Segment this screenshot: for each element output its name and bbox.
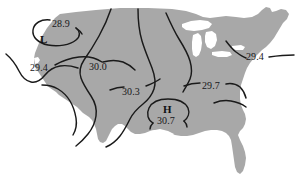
- low-pressure-symbol: L: [40, 34, 47, 45]
- chesapeake-bay-detail: [254, 61, 259, 70]
- landmass-group: [34, 7, 289, 174]
- isobar-label-30-0: 30.0: [89, 62, 107, 72]
- low-pressure-value: 28.9: [52, 19, 70, 29]
- isobar-label-29-4-east: 29.4: [246, 52, 264, 62]
- united-states-landmass: [34, 7, 289, 174]
- high-pressure-symbol: H: [163, 104, 172, 115]
- isobar-label-29-7: 29.7: [202, 81, 220, 91]
- map-graphic: [0, 0, 302, 184]
- isobar-label-30-3: 30.3: [122, 87, 140, 97]
- isobar-label-29-4-west: 29.4: [30, 63, 48, 73]
- high-pressure-value: 30.7: [157, 116, 175, 126]
- pressure-contour-map: L 28.9 H 30.7 29.4 30.0 30.3 29.7 29.4: [0, 0, 302, 184]
- isobar-29-4-east-trail: [269, 55, 294, 57]
